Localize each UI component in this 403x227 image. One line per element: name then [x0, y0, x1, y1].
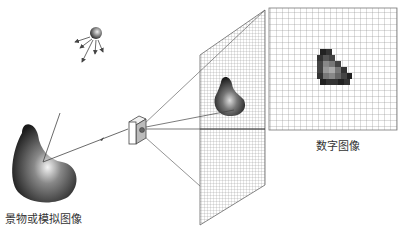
camera-icon [129, 116, 146, 144]
sensor-grid-plane [200, 10, 265, 225]
digital-image-grid [269, 8, 397, 130]
light-source-icon [75, 27, 103, 62]
scene-object-shape [12, 124, 76, 202]
digital-image-label: 数字图像 [316, 137, 360, 153]
scene-label: 景物或模拟图像 [5, 210, 82, 226]
imaging-diagram [0, 0, 403, 227]
